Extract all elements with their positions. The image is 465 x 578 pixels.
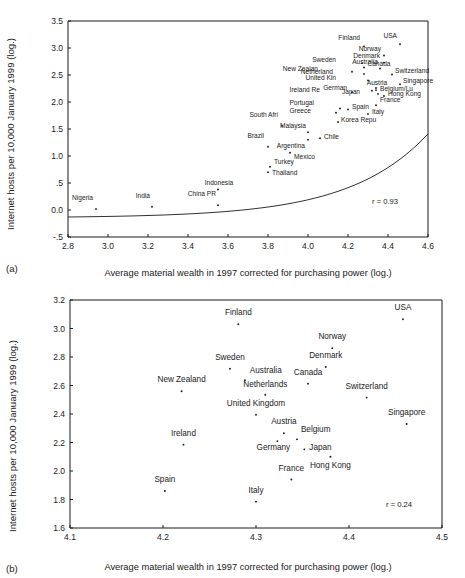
data-point-label: Spain [154, 475, 175, 484]
data-point-marker [383, 95, 385, 97]
data-point-label: Thailand [272, 169, 298, 176]
data-point-marker [276, 440, 278, 442]
y-tick-label: 2.4 [53, 409, 65, 419]
data-point-label: Indonesia [205, 179, 234, 186]
data-point-label: Australia [250, 366, 282, 375]
y-tick-label: .5 [56, 178, 63, 188]
data-point-group: Chile [319, 133, 339, 140]
data-point-marker [229, 368, 231, 370]
data-point-marker [255, 414, 257, 416]
x-tick-label: 4.6 [422, 241, 434, 251]
panel-a-data-points: NigeriaIndiaIndonesiaChina PRThailandTur… [72, 32, 433, 210]
data-point-marker [351, 71, 353, 73]
data-point-marker [267, 146, 269, 148]
y-tick-label: 3.0 [51, 43, 63, 53]
data-point-marker [281, 125, 283, 127]
y-tick-label: 2.0 [53, 466, 65, 476]
data-point-label: Argentina [277, 142, 306, 150]
data-point-label: Italy [248, 486, 264, 495]
data-point-group: Korea Repu [337, 116, 376, 124]
data-point-marker [303, 448, 305, 450]
data-point-marker [375, 89, 377, 91]
data-point-marker [339, 108, 341, 110]
data-point-label: Singapore [403, 77, 433, 85]
x-tick-label: 4.4 [343, 532, 355, 542]
data-point-label: Sweden [312, 56, 336, 63]
panel-a: Internet hosts per 10,000 January 1999 (… [0, 0, 465, 282]
data-point-group: Ireland [171, 429, 196, 446]
data-point-marker [217, 204, 219, 206]
data-point-label: Denmark [309, 351, 343, 360]
data-point-label: Mexico [294, 153, 315, 160]
data-point-group: Italy [248, 486, 264, 503]
data-point-label: Chile [324, 133, 339, 140]
data-point-label: Malaysia [280, 122, 306, 130]
data-point-label: Belgium [301, 425, 331, 434]
data-point-label: German [323, 84, 347, 91]
data-point-marker [383, 55, 385, 57]
x-tick-label: 3.6 [222, 241, 234, 251]
data-point-marker [325, 366, 327, 368]
data-point-group: China PR [188, 190, 219, 206]
data-point-marker [217, 189, 219, 191]
x-tick-label: 4.5 [436, 532, 448, 542]
panel-a-x-axis-title: Average material wealth in 1997 correcte… [104, 268, 391, 278]
data-point-marker [363, 73, 365, 75]
data-point-label: Norway [359, 45, 382, 53]
data-point-group: Indonesia [205, 179, 234, 190]
data-point-marker [371, 90, 373, 92]
data-point-label: France [279, 464, 305, 473]
data-point-marker [399, 43, 401, 45]
data-point-marker [319, 137, 321, 139]
data-point-group: USA [395, 303, 412, 320]
data-point-group: Nigeria [72, 194, 97, 210]
data-point-group: Finland [225, 308, 252, 325]
data-point-group: Belgium [296, 425, 331, 440]
data-point-marker [375, 87, 377, 89]
data-point-group: Italy [367, 108, 385, 116]
figure-container: Internet hosts per 10,000 January 1999 (… [0, 0, 465, 578]
data-point-marker [406, 423, 408, 425]
data-point-group: France [279, 464, 305, 481]
data-point-group: Switzerland [391, 67, 429, 75]
y-tick-label: 1.8 [53, 495, 65, 505]
x-tick-label: 4.4 [382, 241, 394, 251]
x-tick-label: 4.2 [342, 241, 354, 251]
data-point-group: Switzerland [346, 382, 389, 399]
data-point-marker [383, 62, 385, 64]
data-point-marker [337, 121, 339, 123]
data-point-label: New Zealan [283, 65, 319, 72]
y-tick-label: 2.5 [51, 70, 63, 80]
data-point-group: Argentina [277, 139, 309, 150]
data-point-group: India [136, 192, 153, 208]
y-tick-label: 0.0 [51, 205, 63, 215]
data-point-label: Portugal [289, 99, 314, 107]
panel-b-x-axis-title: Average material wealth in 1997 correcte… [104, 562, 391, 572]
data-point-group: USA [383, 32, 401, 45]
data-point-group: South Afri [249, 111, 283, 127]
x-tick-label: 3.2 [142, 241, 154, 251]
data-point-group: New Zealand [157, 375, 206, 392]
data-point-label: Netherlands [243, 380, 287, 389]
data-point-marker [377, 93, 379, 95]
data-point-group: Spain [154, 475, 175, 492]
data-point-label: India [136, 192, 151, 199]
data-point-marker [367, 79, 369, 81]
y-tick-label: 3.2 [53, 295, 65, 305]
x-tick-label: 2.8 [62, 241, 74, 251]
panel-a-plot: Internet hosts per 10,000 January 1999 (… [0, 0, 465, 282]
data-point-group: Sweden [215, 353, 245, 370]
x-tick-label: 3.0 [102, 241, 114, 251]
data-point-group: United Kingdom [227, 399, 285, 416]
data-point-marker [181, 390, 183, 392]
data-point-group: Canada [294, 368, 323, 385]
data-point-label: Japan [309, 443, 332, 452]
data-point-label: Belgium/Lu [380, 85, 413, 93]
data-point-marker [402, 318, 404, 320]
data-point-group: Norway [318, 332, 347, 349]
data-point-group: Turkey [269, 158, 295, 168]
data-point-marker [307, 139, 309, 141]
data-point-group: Japan [342, 88, 379, 96]
data-point-group: Malaysia [280, 122, 309, 133]
data-point-group: Brazil [248, 132, 269, 148]
